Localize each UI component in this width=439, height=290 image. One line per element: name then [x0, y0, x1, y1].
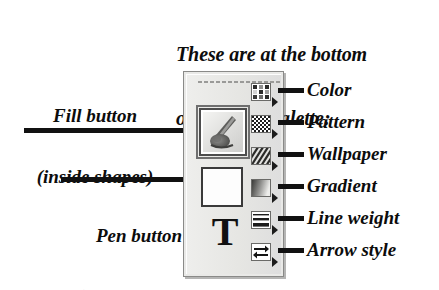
- callout-fill-line-1: Fill button: [6, 106, 184, 126]
- line-weight-icon[interactable]: [251, 211, 271, 229]
- checkerboard-icon[interactable]: [251, 115, 271, 133]
- label-arrow-style: Arrow style: [307, 240, 396, 259]
- arrow-style-dropdown-arrow-icon[interactable]: [272, 257, 278, 267]
- text-tool-icon[interactable]: T: [204, 213, 246, 253]
- label-pattern: Pattern: [307, 112, 365, 131]
- leader-line-fill: [24, 128, 202, 133]
- swatch-row-wallpaper[interactable]: [251, 147, 281, 173]
- swatch-column: [251, 83, 285, 275]
- fill-button[interactable]: [199, 108, 247, 156]
- gradient-dropdown-arrow-icon[interactable]: [272, 193, 278, 203]
- color-dropdown-arrow-icon[interactable]: [272, 97, 278, 107]
- illustration-canvas: These are at the bottom of the Tool Pale…: [0, 0, 439, 290]
- line-weight-dropdown-arrow-icon[interactable]: [272, 225, 278, 235]
- wallpaper-dropdown-arrow-icon[interactable]: [272, 161, 278, 171]
- palette-inner-bevel: T: [186, 74, 281, 274]
- gradient-icon[interactable]: [251, 179, 271, 197]
- leader-dash-wallpaper: [278, 152, 304, 157]
- swatch-row-pattern[interactable]: [251, 115, 281, 141]
- label-wallpaper: Wallpaper: [307, 144, 387, 163]
- heading-line-1: These are at the bottom: [176, 44, 367, 65]
- leader-dash-gradient: [278, 184, 304, 189]
- swatch-row-arrow-style[interactable]: [251, 243, 281, 269]
- callout-pen-line-2: (for lines and: [2, 287, 182, 290]
- swatch-row-gradient[interactable]: [251, 179, 281, 205]
- color-grid-icon[interactable]: [251, 83, 271, 101]
- leader-dash-line-weight: [278, 216, 304, 221]
- label-color: Color: [307, 80, 351, 99]
- label-gradient: Gradient: [307, 176, 377, 195]
- pattern-dropdown-arrow-icon[interactable]: [272, 129, 278, 139]
- callout-pen-button: Pen button (for lines and borders): [2, 186, 182, 290]
- tool-palette[interactable]: T: [183, 71, 284, 277]
- leader-dash-color: [278, 88, 304, 93]
- double-arrow-icon[interactable]: [251, 243, 271, 261]
- label-line-weight: Line weight: [307, 208, 399, 227]
- diagonal-hatch-icon[interactable]: [251, 147, 271, 165]
- leader-dash-pattern: [278, 120, 304, 125]
- callout-pen-line-1: Pen button: [2, 226, 182, 246]
- fill-thumbnail-icon: [203, 112, 243, 152]
- swatch-row-color[interactable]: [251, 83, 281, 109]
- leader-dash-arrow-style: [278, 248, 304, 253]
- swatch-row-line-weight[interactable]: [251, 211, 281, 237]
- pen-button[interactable]: [201, 167, 243, 207]
